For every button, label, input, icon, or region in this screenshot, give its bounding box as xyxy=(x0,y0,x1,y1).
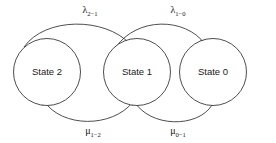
rate-label-lambda-2-1: λ2−1 xyxy=(82,4,97,17)
rate-label-mu-1-2: μ1−2 xyxy=(85,125,101,138)
rate-label-lambda-1-0: λ1−0 xyxy=(170,4,186,17)
rate-subscript-1-2: 1−2 xyxy=(91,131,101,138)
rate-subscript-1-0: 1−0 xyxy=(175,10,186,17)
rate-subscript-0-1: 0−1 xyxy=(176,131,186,138)
state-node-state-0: State 0 xyxy=(180,39,247,106)
state-transition-canvas: λ2−1 λ1−0 μ1−2 μ0−1 xyxy=(0,0,276,143)
state-label-state-1: State 1 xyxy=(122,66,152,77)
state-node-state-1: State 1 xyxy=(104,39,171,106)
rate-subscript-2-1: 2−1 xyxy=(87,10,97,17)
rate-label-mu-0-1: μ0−1 xyxy=(170,125,186,138)
state-label-state-0: State 0 xyxy=(198,66,228,77)
state-label-state-2: State 2 xyxy=(32,66,62,77)
state-node-state-2: State 2 xyxy=(14,39,81,106)
markov-chain-diagram: λ2−1 λ1−0 μ1−2 μ0−1 xyxy=(0,0,276,143)
